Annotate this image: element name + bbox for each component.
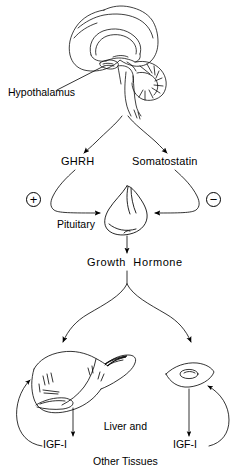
arrow-somatostatin-to-pituitary [155,170,199,213]
label-pituitary: Pituitary [57,219,95,230]
label-somatostatin: Somatostatin [132,156,197,167]
feedback-loop-left [17,380,42,446]
tissue-cell-illustration [166,363,214,387]
feedback-loop-right [208,386,229,446]
label-ghrh: GHRH [61,156,95,167]
plus-sign-glyph: + [27,193,40,206]
pituitary-gland-illustration [105,186,147,235]
label-tissues-line-2: Other Tissues [93,456,158,468]
arrow-gh-to-liver [63,284,127,342]
arrow-gh-to-tissues [127,284,191,342]
arrow-ghrh-to-pituitary [51,170,100,213]
brain-illustration [69,6,166,119]
label-tissues-line-1: Liver and [93,421,158,433]
minus-sign-icon: − [206,192,221,207]
arrow-to-ghrh [84,116,122,153]
label-hypothalamus: Hypothalamus [8,87,75,98]
label-igf-i-left: IGF-I [43,439,67,450]
label-liver-and-other-tissues: Liver and Other Tissues [93,398,158,469]
label-growth-hormone: Growth Hormone [87,257,183,268]
plus-sign-icon: + [26,192,41,207]
arrow-to-somatostatin [128,116,167,153]
minus-sign-glyph: − [207,193,220,206]
label-igf-i-right: IGF-I [173,439,197,450]
